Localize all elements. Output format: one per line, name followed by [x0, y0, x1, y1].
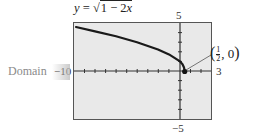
function-curve: [76, 27, 185, 71]
plot-svg: [0, 0, 261, 136]
fraction-half: 12: [216, 46, 220, 63]
endpoint-annotation: (12, 0): [210, 44, 240, 63]
annotation-leader-line: [186, 55, 211, 70]
